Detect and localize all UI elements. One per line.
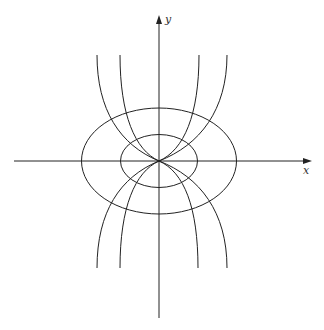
- y-axis-arrow-icon: [156, 15, 162, 24]
- orthogonal-trajectories-diagram: x y: [0, 0, 324, 330]
- x-axis-label: x: [303, 164, 310, 177]
- y-axis-label: y: [164, 13, 172, 26]
- inner-right-curve-lower: [159, 161, 198, 268]
- inner-left-curve-lower: [120, 161, 159, 268]
